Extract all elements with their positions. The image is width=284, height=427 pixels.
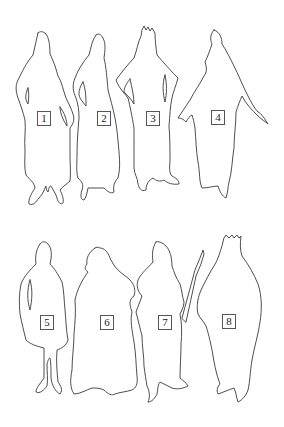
figure-5-arm-gap [28,280,32,310]
figure-label-5: 5 [40,315,54,330]
figure-label-8: 8 [222,314,236,329]
figure-outlines [0,0,284,427]
figure-label-7: 7 [158,315,172,330]
figure-1-arm-gap-left [26,88,29,104]
figure-3-outline [116,26,179,191]
figure-label-2: 2 [97,111,111,126]
figure-label-1: 1 [37,111,51,126]
figure-7-spear [182,250,204,322]
figure-2-arm-gap [79,82,86,106]
figure-1-arm-gap-right [60,107,67,126]
figure-label-3: 3 [146,111,160,126]
figure-label-6: 6 [100,315,114,330]
figure-3-arm-gap-right [163,75,166,102]
figure-label-4: 4 [211,110,225,125]
